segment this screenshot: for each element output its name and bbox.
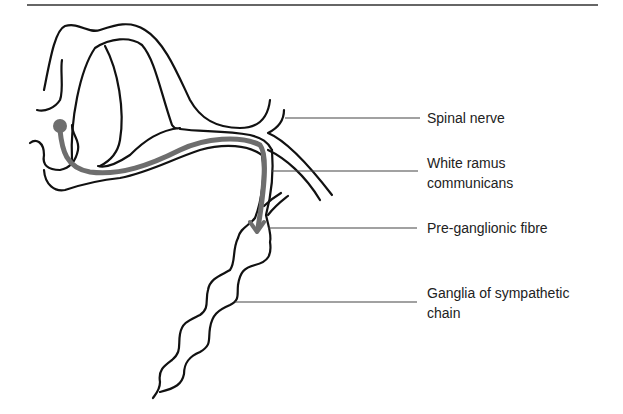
- label-pre-ganglionic-fibre: Pre-ganglionic fibre: [427, 218, 548, 238]
- sympathetic-chain-right: [160, 242, 270, 392]
- label-ganglia-sympathetic-chain: Ganglia of sympathetic chain: [427, 283, 569, 323]
- inner-arch: [72, 39, 180, 166]
- pre-ganglionic-pathway: [53, 119, 264, 232]
- central-arc: [100, 46, 122, 166]
- spinal-nerve-lower: [268, 150, 320, 200]
- label-white-ramus-communicans: White ramus communicans: [427, 153, 513, 193]
- label-spinal-nerve: Spinal nerve: [427, 108, 505, 128]
- sympathetic-chain-left: [153, 238, 238, 398]
- spinal-nerve-upper: [268, 110, 332, 195]
- sympathetic-pathway-diagram: [0, 0, 623, 414]
